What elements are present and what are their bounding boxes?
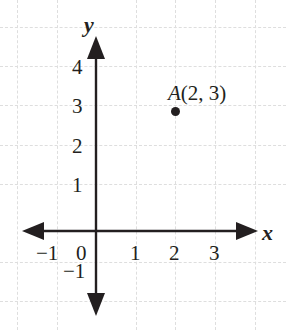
plotted-point-a-name: A: [168, 81, 181, 105]
axes-svg: [0, 0, 286, 330]
y-tick-label-4: 4: [72, 57, 83, 78]
y-axis-top-arrowhead: [87, 36, 105, 59]
y-tick-label-1: 1: [72, 175, 83, 196]
origin-label: 0: [76, 243, 87, 264]
x-tick-label-2: 2: [169, 243, 180, 264]
x-tick-label-3: 3: [209, 243, 220, 264]
x-tick-label-negative-1: −1: [36, 243, 58, 264]
y-axis-label: y: [84, 14, 94, 36]
y-axis-bottom-arrowhead: [87, 293, 105, 316]
plotted-point-a: [171, 107, 180, 116]
x-axis-left-arrowhead: [22, 222, 44, 240]
axes: [0, 0, 286, 330]
coordinate-plane-figure: y x 4 3 2 1 −1 −1 0 1 2 3 A(2, 3): [0, 0, 286, 330]
plotted-point-a-label: A(2, 3): [168, 83, 226, 104]
x-axis-label: x: [262, 222, 273, 244]
x-axis-right-arrowhead: [236, 222, 258, 240]
y-tick-label-2: 2: [72, 136, 83, 157]
plotted-point-a-coords: (2, 3): [181, 81, 227, 105]
y-tick-label-3: 3: [72, 96, 83, 117]
x-tick-label-1: 1: [130, 243, 141, 264]
